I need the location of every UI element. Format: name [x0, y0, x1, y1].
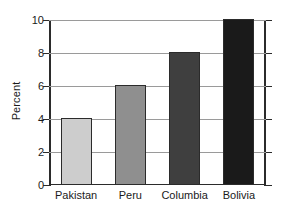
- x-axis-tick-labels: PakistanPeruColumbiaBolivia: [49, 189, 266, 207]
- y-axis-tick-mark: [43, 119, 49, 120]
- y-axis-tick-mark: [43, 20, 49, 21]
- y-axis-tick-label: 10: [20, 15, 44, 26]
- y-axis-tick-mark: [266, 86, 272, 87]
- bar-chart-figure: Percent 0246810 PakistanPeruColumbiaBoli…: [0, 0, 288, 212]
- y-axis-tick-mark: [43, 185, 49, 186]
- bar: [115, 85, 146, 185]
- plot-area: [49, 20, 266, 185]
- y-axis-tick-labels: 0246810: [20, 0, 44, 212]
- x-axis-tick-label: Peru: [119, 189, 142, 201]
- y-axis-tick-label: 8: [20, 48, 44, 59]
- y-axis-tick-label: 2: [20, 147, 44, 158]
- y-axis-tick-label: 6: [20, 81, 44, 92]
- bar: [169, 52, 200, 185]
- x-axis-tick-label: Pakistan: [55, 189, 97, 201]
- y-axis-tick-label: 0: [20, 180, 44, 191]
- x-axis-tick-label: Bolivia: [223, 189, 255, 201]
- bar: [223, 19, 254, 185]
- bar: [61, 118, 92, 185]
- y-axis-tick-mark: [43, 86, 49, 87]
- y-axis-tick-mark: [266, 53, 272, 54]
- y-axis-tick-mark: [266, 119, 272, 120]
- y-axis-tick-mark: [266, 152, 272, 153]
- y-axis-tick-mark: [43, 152, 49, 153]
- y-axis-tick-mark: [266, 185, 272, 186]
- y-axis-tick-mark: [266, 20, 272, 21]
- y-axis-tick-label: 4: [20, 114, 44, 125]
- y-axis-tick-mark: [43, 53, 49, 54]
- x-axis-tick-label: Columbia: [161, 189, 207, 201]
